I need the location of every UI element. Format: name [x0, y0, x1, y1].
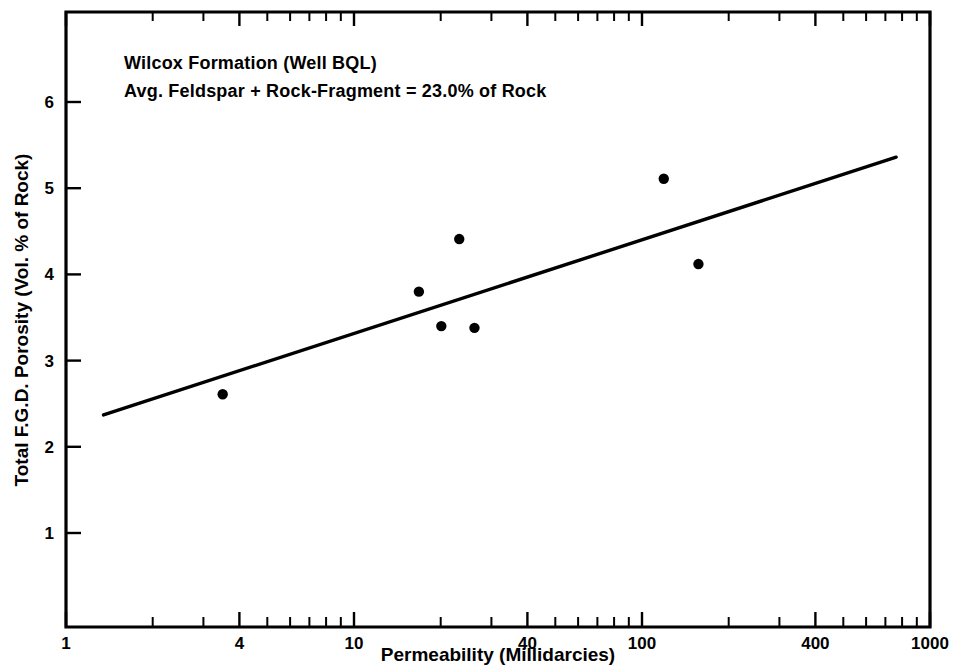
- chart-figure: 1410401004001000 123456 Wilcox Formation…: [0, 0, 958, 668]
- y-axis-title: Total F.G.D. Porosity (Vol. % of Rock): [11, 154, 32, 487]
- x-tick-label-1000: 1000: [911, 634, 949, 653]
- x-tick-label-10: 10: [345, 634, 364, 653]
- y-tick-label-6: 6: [45, 93, 54, 112]
- y-tick-label-5: 5: [45, 179, 54, 198]
- y-tick-label-3: 3: [45, 352, 54, 371]
- chart-svg: 1410401004001000 123456 Wilcox Formation…: [0, 0, 958, 668]
- data-point-6: [659, 174, 669, 184]
- data-point-3: [436, 321, 446, 331]
- x-tick-label-4: 4: [235, 634, 245, 653]
- data-point-4: [454, 234, 464, 244]
- x-axis-title: Permeability (Millidarcies): [381, 644, 615, 665]
- y-tick-label-2: 2: [45, 438, 54, 457]
- annotation-line-2: Avg. Feldspar + Rock-Fragment = 23.0% of…: [124, 81, 547, 101]
- x-tick-label-1: 1: [61, 634, 70, 653]
- y-tick-label-1: 1: [45, 524, 54, 543]
- data-point-5: [469, 323, 479, 333]
- data-point-1: [217, 389, 227, 399]
- y-tick-label-4: 4: [45, 265, 55, 284]
- annotation-line-1: Wilcox Formation (Well BQL): [124, 53, 377, 73]
- data-point-2: [414, 286, 424, 296]
- data-point-7: [693, 259, 703, 269]
- x-tick-label-400: 400: [801, 634, 829, 653]
- x-tick-label-100: 100: [628, 634, 656, 653]
